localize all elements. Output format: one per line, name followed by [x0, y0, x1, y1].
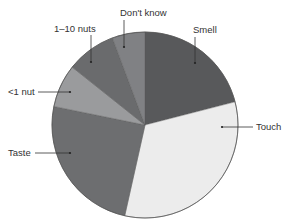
label-touch-text: Touch [256, 121, 281, 132]
label-1-10-nuts-text: 1–10 nuts [54, 23, 96, 34]
leader-dot [123, 46, 125, 48]
label-less-than-1-nut-text: <1 nut [8, 86, 35, 97]
label-smell-text: Smell [193, 24, 217, 35]
pie-chart: Smell Don't know 1–10 nuts <1 nut Taste … [0, 0, 288, 224]
pie-slices [52, 32, 238, 218]
label-taste-text: Taste [8, 147, 31, 158]
leader-dot [69, 91, 71, 93]
leader-dot [194, 62, 196, 64]
leader-dot [69, 152, 71, 154]
label-dont-know-text: Don't know [120, 7, 167, 18]
leader-dot [221, 126, 223, 128]
leader-dot [90, 61, 92, 63]
